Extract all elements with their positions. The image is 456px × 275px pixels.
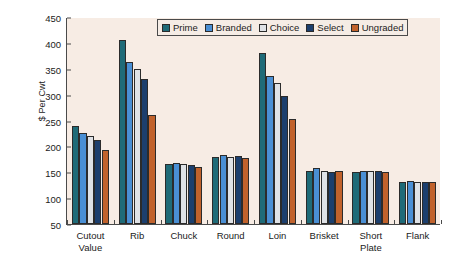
bar-ungraded bbox=[102, 150, 109, 224]
legend-item-ungraded[interactable]: Ungraded bbox=[351, 22, 404, 33]
legend-label: Prime bbox=[173, 22, 198, 33]
bar-group bbox=[207, 18, 254, 224]
bar-branded bbox=[266, 76, 273, 224]
bar-group bbox=[301, 18, 348, 224]
bar-group bbox=[348, 18, 395, 224]
legend-swatch-icon bbox=[162, 24, 170, 32]
x-axis-tick-mark bbox=[394, 220, 395, 224]
y-axis-tick-label: 400 bbox=[45, 38, 61, 49]
x-axis-tick-mark bbox=[67, 220, 68, 224]
y-axis-tick-label: 150 bbox=[45, 168, 61, 179]
bar-group bbox=[67, 18, 114, 224]
bar-prime bbox=[352, 172, 359, 224]
x-axis-tick-label: Rib bbox=[130, 230, 144, 242]
x-axis-tick-mark bbox=[348, 220, 349, 224]
chart-legend: PrimeBrandedChoiceSelectUngraded bbox=[157, 19, 408, 36]
legend-label: Ungraded bbox=[362, 22, 404, 33]
y-axis-tick-label: 200 bbox=[45, 142, 61, 153]
bar-prime bbox=[119, 40, 126, 224]
bar-branded bbox=[313, 168, 320, 224]
bar-ungraded bbox=[148, 115, 155, 224]
legend-swatch-icon bbox=[259, 24, 267, 32]
bar-choice bbox=[274, 83, 281, 224]
legend-label: Branded bbox=[216, 22, 252, 33]
bar-prime bbox=[259, 53, 266, 224]
plot-inner: 50100150200250300350400450Cutout ValueRi… bbox=[67, 18, 440, 224]
bar-choice bbox=[180, 164, 187, 224]
bar-choice bbox=[414, 182, 421, 224]
x-axis-tick-mark bbox=[207, 220, 208, 224]
x-axis-tick-label: Short Plate bbox=[360, 230, 383, 253]
legend-item-choice[interactable]: Choice bbox=[259, 22, 300, 33]
legend-item-select[interactable]: Select bbox=[306, 22, 343, 33]
bar-prime bbox=[306, 171, 313, 224]
legend-swatch-icon bbox=[351, 24, 359, 32]
x-axis-tick-mark bbox=[161, 220, 162, 224]
bar-select bbox=[141, 79, 148, 224]
x-axis-tick-mark bbox=[114, 220, 115, 224]
bar-group bbox=[394, 18, 441, 224]
legend-label: Select bbox=[317, 22, 343, 33]
bar-ungraded bbox=[335, 171, 342, 224]
x-axis-tick-label: Cutout Value bbox=[76, 230, 104, 253]
y-axis-tick-label: 350 bbox=[45, 64, 61, 75]
legend-item-prime[interactable]: Prime bbox=[162, 22, 198, 33]
bar-group bbox=[254, 18, 301, 224]
bar-branded bbox=[79, 133, 86, 224]
bar-ungraded bbox=[242, 158, 249, 224]
bar-select bbox=[328, 172, 335, 224]
bar-select bbox=[422, 182, 429, 224]
bar-prime bbox=[72, 126, 79, 224]
bar-ungraded bbox=[289, 119, 296, 224]
legend-label: Choice bbox=[270, 22, 300, 33]
y-axis-tick-mark bbox=[67, 225, 71, 226]
y-axis-tick-label: 50 bbox=[50, 220, 61, 231]
bar-ungraded bbox=[429, 182, 436, 224]
bar-group bbox=[161, 18, 208, 224]
bar-branded bbox=[407, 181, 414, 224]
bar-select bbox=[188, 165, 195, 225]
plot-area: 50100150200250300350400450Cutout ValueRi… bbox=[66, 18, 440, 225]
bar-choice bbox=[321, 171, 328, 224]
bar-select bbox=[375, 171, 382, 224]
bar-select bbox=[94, 140, 101, 224]
bar-choice bbox=[134, 69, 141, 224]
legend-item-branded[interactable]: Branded bbox=[205, 22, 252, 33]
legend-swatch-icon bbox=[205, 24, 213, 32]
x-axis-tick-mark bbox=[301, 220, 302, 224]
y-axis-tick-label: 300 bbox=[45, 90, 61, 101]
bar-branded bbox=[126, 62, 133, 224]
y-axis-tick-label: 450 bbox=[45, 13, 61, 24]
x-axis-tick-label: Loin bbox=[268, 230, 286, 242]
x-axis-tick-label: Round bbox=[217, 230, 245, 242]
bar-branded bbox=[173, 163, 180, 224]
bar-choice bbox=[87, 136, 94, 224]
y-axis-tick-label: 250 bbox=[45, 116, 61, 127]
bar-branded bbox=[360, 171, 367, 224]
bar-choice bbox=[367, 171, 374, 224]
y-axis-tick-label: 100 bbox=[45, 194, 61, 205]
legend-swatch-icon bbox=[306, 24, 314, 32]
x-axis-tick-label: Flank bbox=[406, 230, 429, 242]
x-axis-tick-label: Chuck bbox=[170, 230, 197, 242]
x-axis-tick-label: Brisket bbox=[310, 230, 339, 242]
bar-prime bbox=[399, 182, 406, 224]
x-axis-tick-mark bbox=[441, 220, 442, 224]
bar-prime bbox=[212, 157, 219, 224]
bar-group bbox=[114, 18, 161, 224]
bar-prime bbox=[165, 164, 172, 224]
bar-chart: $ Per Cwt 50100150200250300350400450Cuto… bbox=[0, 0, 456, 275]
bar-choice bbox=[227, 157, 234, 224]
bar-select bbox=[235, 156, 242, 224]
x-axis-tick-mark bbox=[254, 220, 255, 224]
bar-select bbox=[281, 96, 288, 224]
bar-ungraded bbox=[195, 167, 202, 224]
bar-ungraded bbox=[382, 172, 389, 224]
bar-branded bbox=[220, 155, 227, 224]
